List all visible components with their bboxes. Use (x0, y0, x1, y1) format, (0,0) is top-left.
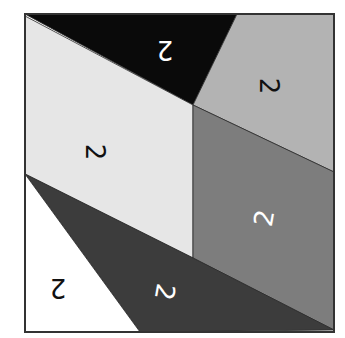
white-region-label: 2 (50, 273, 67, 303)
light-gray-region-label: 2 (254, 78, 284, 95)
regions-group: 222222 (25, 14, 334, 332)
quilt-diagram: 222222 (0, 0, 345, 338)
off-white-region-label: 2 (80, 144, 110, 161)
black-triangle-region-label: 2 (157, 35, 174, 65)
